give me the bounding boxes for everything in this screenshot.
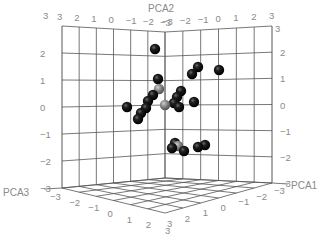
axis-label-pca1: PCA1	[291, 180, 318, 191]
data-point	[189, 97, 199, 107]
data-point	[179, 146, 189, 156]
tick-label: 0	[108, 208, 113, 219]
pca-3d-scatter-plot: 3210−1−2−33−3−2−101233210−1−2−3210−1−2−3…	[0, 0, 332, 236]
data-point	[133, 114, 143, 124]
tick-label: 0	[109, 14, 114, 25]
axis-label-pca3: PCA3	[3, 187, 30, 198]
tick-label: 2	[251, 11, 256, 22]
tick-label: 3	[269, 10, 274, 21]
tick-label: 1	[233, 12, 238, 23]
tick-label: −3	[274, 185, 285, 196]
tick-label: −2	[280, 152, 291, 163]
tick-label: 1	[203, 207, 208, 218]
tick-label: −2	[69, 197, 80, 208]
tick-label: −3	[162, 16, 173, 27]
axis-label-pca2: PCA2	[148, 3, 175, 14]
tick-label: −1	[198, 14, 209, 25]
tick-label: 0	[40, 102, 45, 113]
tick-label: 3	[275, 23, 280, 34]
grid-floor	[44, 178, 288, 213]
data-point	[153, 74, 163, 84]
tick-label: −1	[238, 196, 249, 207]
tick-label: 0	[280, 100, 285, 111]
data-point	[150, 44, 160, 54]
tick-label: 3	[57, 11, 62, 22]
data-point	[174, 102, 184, 112]
tick-label: −1	[280, 126, 291, 137]
data-point	[214, 65, 224, 75]
data-point	[193, 142, 203, 152]
grid-line	[148, 180, 254, 188]
tick-label: 3	[43, 10, 48, 21]
tick-label: −2	[143, 16, 154, 27]
tick-label: 2	[146, 219, 151, 230]
tick-label: 2	[185, 213, 190, 224]
axis-ticks: 3210−1−2−33−3−2−101233210−1−2−3210−1−2−3…	[40, 10, 291, 236]
data-point	[122, 102, 132, 112]
tick-label: 3	[167, 218, 172, 229]
tick-label: −2	[256, 191, 267, 202]
tick-label: 2	[74, 12, 79, 23]
tick-label: 1	[280, 73, 285, 84]
tick-label: −2	[40, 156, 51, 167]
tick-label: −1	[88, 202, 99, 213]
tick-label: 2	[280, 47, 285, 58]
tick-label: 0	[216, 13, 221, 24]
tick-label: 1	[127, 214, 132, 225]
grid-line	[131, 181, 237, 193]
tick-label: −1	[40, 129, 51, 140]
data-point	[160, 100, 170, 110]
tick-label: −3	[50, 191, 61, 202]
tick-label: −2	[180, 15, 191, 26]
tick-label: 2	[40, 48, 45, 59]
tick-label: 1	[91, 13, 96, 24]
data-points	[122, 44, 224, 156]
tick-label: 0	[221, 202, 226, 213]
data-point	[167, 143, 177, 153]
data-point	[187, 69, 197, 79]
tick-label: 1	[40, 75, 45, 86]
tick-label: −1	[126, 15, 137, 26]
